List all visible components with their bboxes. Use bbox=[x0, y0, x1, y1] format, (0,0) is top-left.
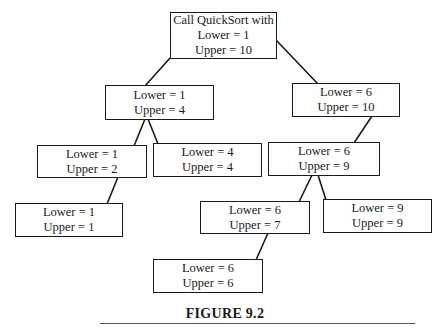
node-upper-label: Upper = 9 bbox=[352, 216, 403, 231]
node-lower-label: Lower = 1 bbox=[66, 147, 118, 162]
edge-root-to-6-10 bbox=[276, 40, 318, 84]
node-lower-label: Lower = 9 bbox=[351, 201, 403, 216]
figure-caption: FIGURE 9.2 bbox=[140, 306, 310, 322]
node-upper-label: Upper = 7 bbox=[230, 218, 281, 233]
node-root-line1: Call QuickSort with bbox=[173, 13, 274, 28]
edge-6-9-to-6-7 bbox=[299, 175, 312, 202]
edge-6-10-to-6-9 bbox=[354, 116, 372, 143]
node-lower-label: Lower = 4 bbox=[181, 145, 233, 160]
edge-1-4-to-4-4 bbox=[148, 119, 158, 144]
node-root-line2: Lower = 1 bbox=[197, 28, 249, 43]
caption-divider bbox=[100, 323, 415, 324]
node-lower6-upper6: Lower = 6 Upper = 6 bbox=[153, 259, 263, 293]
edge-6-7-to-6-6 bbox=[256, 233, 268, 260]
node-lower-label: Lower = 1 bbox=[133, 88, 185, 103]
node-lower-label: Lower = 6 bbox=[182, 261, 234, 276]
node-lower-label: Lower = 6 bbox=[229, 203, 281, 218]
node-lower-label: Lower = 1 bbox=[43, 205, 95, 220]
node-upper-label: Upper = 4 bbox=[134, 103, 185, 118]
node-lower1-upper1: Lower = 1 Upper = 1 bbox=[15, 203, 123, 237]
node-upper-label: Upper = 10 bbox=[317, 100, 374, 115]
node-upper-label: Upper = 9 bbox=[299, 159, 350, 174]
edge-root-to-1-4 bbox=[145, 58, 170, 86]
node-lower1-upper2: Lower = 1 Upper = 2 bbox=[37, 145, 147, 178]
node-lower6-upper9: Lower = 6 Upper = 9 bbox=[268, 142, 380, 176]
node-lower-label: Lower = 6 bbox=[298, 144, 350, 159]
node-lower6-upper7: Lower = 6 Upper = 7 bbox=[200, 201, 310, 234]
node-lower1-upper4: Lower = 1 Upper = 4 bbox=[105, 85, 214, 120]
node-upper-label: Upper = 2 bbox=[67, 162, 118, 177]
node-lower9-upper9: Lower = 9 Upper = 9 bbox=[323, 199, 432, 233]
node-lower-label: Lower = 6 bbox=[320, 85, 372, 100]
node-lower4-upper4: Lower = 4 Upper = 4 bbox=[153, 143, 262, 177]
edge-1-4-to-1-2 bbox=[134, 119, 145, 146]
node-lower6-upper10: Lower = 6 Upper = 10 bbox=[292, 83, 400, 117]
node-upper-label: Upper = 4 bbox=[182, 160, 233, 175]
node-root-line3: Upper = 10 bbox=[195, 43, 252, 58]
edge-1-2-to-1-1 bbox=[107, 177, 118, 204]
node-upper-label: Upper = 6 bbox=[183, 276, 234, 291]
edge-6-9-to-9-9 bbox=[318, 175, 326, 200]
node-root-quicksort-call: Call QuickSort with Lower = 1 Upper = 10 bbox=[170, 12, 277, 59]
node-upper-label: Upper = 1 bbox=[44, 220, 95, 235]
